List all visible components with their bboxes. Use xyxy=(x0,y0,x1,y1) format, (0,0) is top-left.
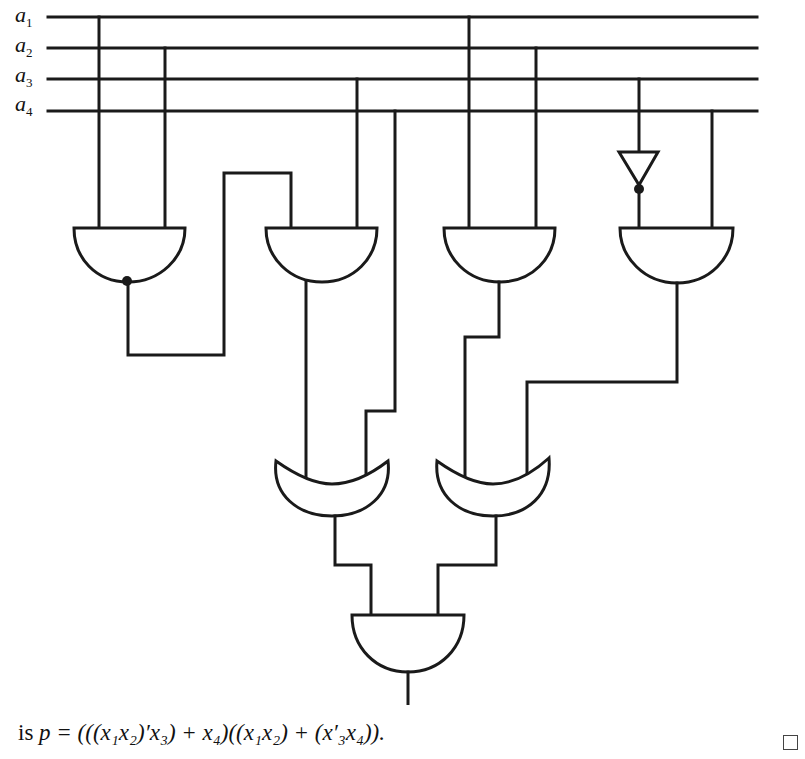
and-gate-3 xyxy=(444,17,555,480)
input-label-a4: a4 xyxy=(15,93,33,118)
or-gate-1 xyxy=(276,461,389,615)
caption-prefix: is xyxy=(18,720,39,745)
logic-circuit-diagram xyxy=(0,0,805,705)
input-label-a1: a1 xyxy=(15,4,33,29)
input-label-a3: a3 xyxy=(15,64,33,89)
input-bus xyxy=(48,17,757,111)
wire-a4-to-or1 xyxy=(366,111,395,480)
nand-gate-1 xyxy=(74,17,291,355)
qed-square-icon xyxy=(783,735,798,750)
boolean-expression: p = (((x₁x₂)′x₃) + x₄)((x₁x₂) + (x′₃x₄))… xyxy=(39,720,385,745)
and-gate-output xyxy=(352,615,464,705)
input-label-a2: a2 xyxy=(15,34,33,59)
caption-expression: is p = (((x₁x₂)′x₃) + x₄)((x₁x₂) + (x′₃x… xyxy=(18,720,385,746)
or-gate-2 xyxy=(437,458,549,615)
and-gate-2 xyxy=(266,79,377,480)
not-gate-icon xyxy=(619,152,658,185)
and-gate-4 xyxy=(527,79,733,480)
